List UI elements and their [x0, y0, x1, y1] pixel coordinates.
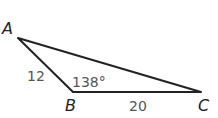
side-bc-length: 20	[129, 98, 147, 114]
vertex-label-c: C	[198, 96, 210, 115]
triangle-abc	[18, 38, 201, 92]
angle-b-measure: 138°	[72, 74, 106, 90]
triangle-diagram: A B C 12 138° 20	[0, 0, 218, 118]
vertex-label-a: A	[1, 19, 13, 38]
vertex-label-b: B	[65, 96, 76, 115]
side-ab-length: 12	[27, 68, 45, 84]
